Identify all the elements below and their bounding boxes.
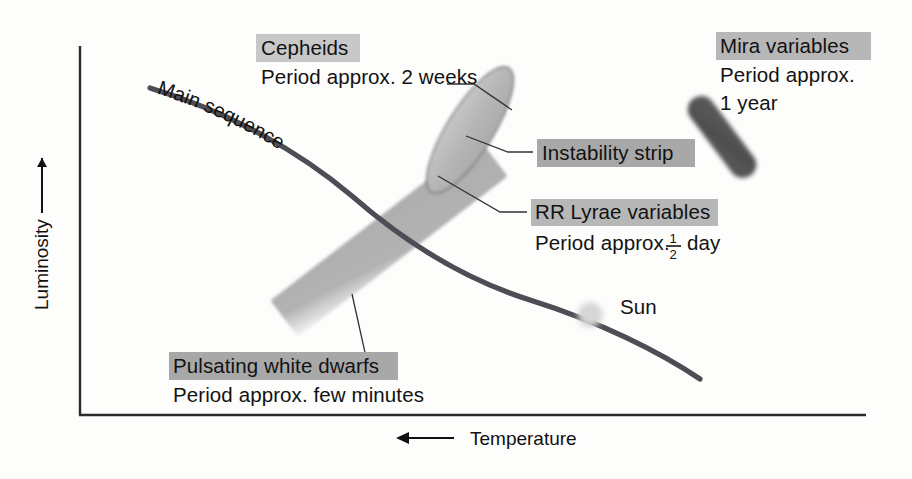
- pulsating-white-dwarfs-detail: Period approx. few minutes: [173, 383, 424, 406]
- annotation-cepheids: Cepheids Period approx. 2 weeks: [256, 34, 477, 88]
- rr-lyrae-detail-prefix: Period approx.: [535, 231, 670, 254]
- y-axis-arrow-head: [37, 158, 47, 167]
- x-axis-label: Temperature: [470, 428, 577, 449]
- diagram-canvas: Luminosity Temperature Main sequence: [0, 0, 912, 479]
- y-axis-label-group: Luminosity: [31, 158, 52, 310]
- annotation-mira-variables: Mira variables Period approx. 1 year: [716, 32, 871, 114]
- x-axis-label-group: Temperature: [396, 428, 577, 449]
- white-dwarf-band-shape: [270, 140, 507, 337]
- sun-label: Sun: [620, 295, 657, 318]
- annotation-pulsating-white-dwarfs: Pulsating white dwarfs Period approx. fe…: [169, 352, 424, 406]
- hr-diagram-figure: Luminosity Temperature Main sequence: [0, 0, 912, 479]
- fraction-denominator: 2: [669, 247, 676, 262]
- annotation-instability-strip: Instability strip: [537, 139, 695, 167]
- white-dwarf-band-region: [270, 140, 507, 337]
- mira-variables-heading: Mira variables: [720, 34, 849, 57]
- annotation-rr-lyrae: RR Lyrae variables Period approx. 1 2 da…: [531, 199, 721, 262]
- sun-marker: [575, 300, 605, 330]
- cepheids-detail: Period approx. 2 weeks: [261, 65, 477, 88]
- sun-circle: [575, 300, 605, 330]
- x-axis-arrow-head: [396, 432, 409, 444]
- cepheids-heading: Cepheids: [261, 36, 348, 59]
- mira-variables-detail-line-1: Period approx.: [720, 63, 855, 86]
- instability-strip-heading: Instability strip: [542, 141, 674, 164]
- fraction-numerator: 1: [669, 231, 676, 246]
- annotation-sun: Sun: [620, 295, 657, 318]
- rr-lyrae-detail-suffix: day: [687, 231, 721, 254]
- mira-variables-detail-line-2: 1 year: [720, 91, 778, 114]
- rr-lyrae-heading: RR Lyrae variables: [535, 200, 710, 223]
- y-axis-label: Luminosity: [31, 219, 52, 310]
- pulsating-white-dwarfs-heading: Pulsating white dwarfs: [173, 354, 379, 377]
